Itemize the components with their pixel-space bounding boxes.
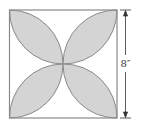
leaf-top-left (10, 10, 64, 64)
leaf-shapes (10, 10, 118, 118)
arrow-up-icon (124, 11, 128, 17)
dimension-label: 8″ (120, 58, 130, 69)
leaf-top-right (63, 10, 117, 64)
leaf-bottom-left (10, 64, 64, 118)
diagram-canvas: 8″ (0, 0, 141, 127)
arrow-down-icon (124, 112, 128, 118)
leaf-bottom-right (63, 64, 117, 118)
